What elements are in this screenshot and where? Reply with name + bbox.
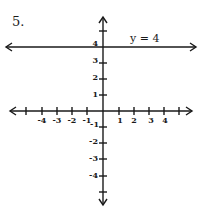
y-tick-label: -3 — [89, 153, 98, 163]
equation-label: y = 4 — [129, 32, 159, 45]
x-tick-label: 3 — [148, 115, 154, 125]
y-tick-label: -4 — [89, 170, 98, 180]
x-tick-label: 4 — [162, 115, 168, 125]
y-tick-label: 2 — [92, 72, 98, 82]
y-tick-label: 4 — [92, 38, 98, 48]
y-tick-label: 1 — [92, 89, 98, 99]
y-tick-label: -1 — [90, 119, 99, 129]
coordinate-plane: -4 -3 -2 -1 1 2 3 4 4 3 2 1 -1 -2 -3 -4 … — [0, 0, 201, 213]
x-tick-label: 1 — [117, 115, 123, 125]
x-tick-label: -4 — [38, 115, 47, 125]
x-tick-label: -3 — [53, 115, 62, 125]
y-tick-label: -2 — [89, 136, 98, 146]
y-tick-label: 3 — [92, 55, 98, 65]
x-tick-label: -2 — [68, 115, 77, 125]
x-tick-label: 2 — [131, 115, 137, 125]
